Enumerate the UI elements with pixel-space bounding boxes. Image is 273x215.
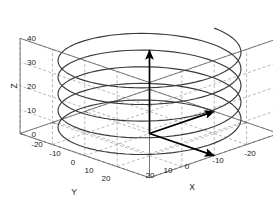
x-tick-label: -20 [244,149,256,158]
figure-background [0,0,273,215]
x-axis-label: X [189,182,195,192]
helix-3d-plot: 20 10 0 -10 -20 -20 -10 0 10 20 40 30 20… [0,0,273,215]
y-axis-label: Y [71,187,77,197]
x-tick-label: -10 [212,156,224,165]
y-tick-label: 10 [85,166,94,175]
x-tick-label: 0 [185,162,190,171]
z-tick-label: 40 [27,34,36,43]
y-tick-label: 20 [102,174,111,183]
y-tick-label: 0 [71,158,76,167]
z-tick-label: 0 [32,130,37,139]
z-axis-label: Z [9,83,19,88]
x-tick-label: 20 [146,171,155,180]
matlab-3d-figure: 20 10 0 -10 -20 -20 -10 0 10 20 40 30 20… [0,0,273,215]
z-tick-label: 10 [27,106,36,115]
z-tick-label: 20 [27,82,36,91]
x-tick-label: 10 [164,166,173,175]
z-tick-label: 30 [27,58,36,67]
y-tick-label: -20 [31,140,43,149]
y-tick-label: -10 [49,149,61,158]
